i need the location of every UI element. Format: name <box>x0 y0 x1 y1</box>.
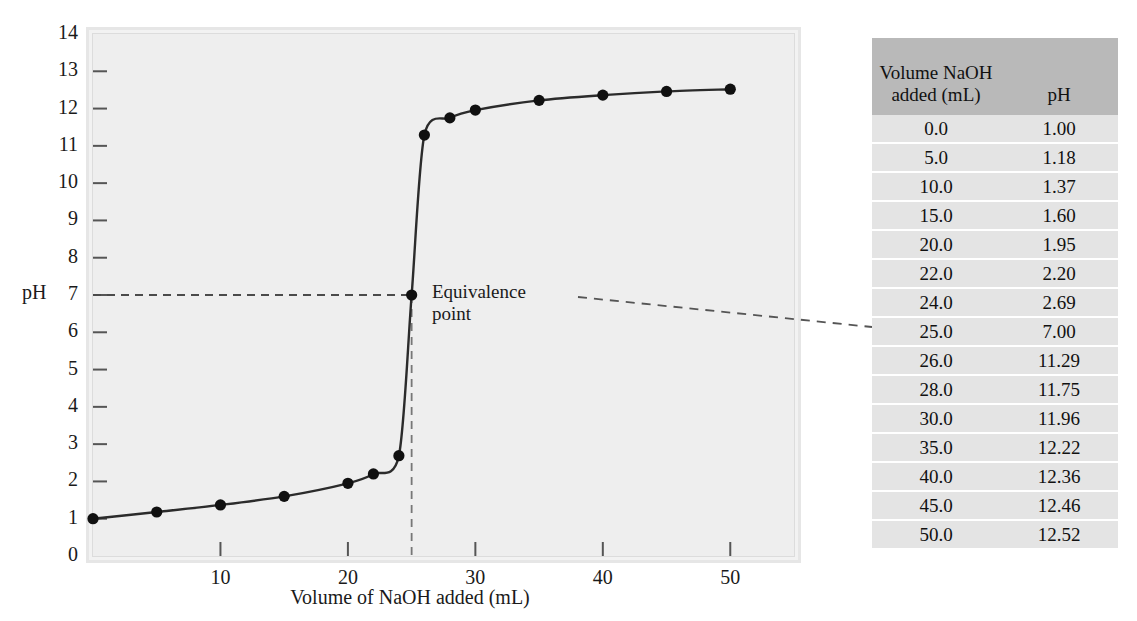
cell-volume: 5.0 <box>872 143 1000 172</box>
table-row: 25.07.00 <box>872 317 1118 346</box>
y-tick-label-3: 3 <box>44 431 78 454</box>
x-tick-label-40: 40 <box>583 566 623 589</box>
y-tick-label-9: 9 <box>44 207 78 230</box>
y-tick-label-14: 14 <box>44 21 78 44</box>
column-header-volume: Volume NaOH added (mL) <box>872 38 1000 115</box>
cell-volume: 45.0 <box>872 491 1000 520</box>
y-tick-label-7: 7 <box>44 282 78 305</box>
cell-ph: 7.00 <box>1000 317 1118 346</box>
y-tick-label-2: 2 <box>44 468 78 491</box>
cell-volume: 35.0 <box>872 433 1000 462</box>
x-tick-label-20: 20 <box>328 566 368 589</box>
cell-volume: 25.0 <box>872 317 1000 346</box>
cell-ph: 1.60 <box>1000 201 1118 230</box>
column-header-ph: pH <box>1000 38 1118 115</box>
table-row: 10.01.37 <box>872 172 1118 201</box>
y-tick-label-6: 6 <box>44 319 78 342</box>
y-tick-label-12: 12 <box>44 96 78 119</box>
y-axis-title: pH <box>22 281 46 304</box>
table-row: 26.011.29 <box>872 346 1118 375</box>
cell-volume: 22.0 <box>872 259 1000 288</box>
cell-ph: 2.69 <box>1000 288 1118 317</box>
cell-volume: 30.0 <box>872 404 1000 433</box>
table-body: 0.01.005.01.1810.01.3715.01.6020.01.9522… <box>872 115 1118 548</box>
y-tick-label-4: 4 <box>44 394 78 417</box>
table-row: 22.02.20 <box>872 259 1118 288</box>
table-row: 20.01.95 <box>872 230 1118 259</box>
x-tick-label-50: 50 <box>710 566 750 589</box>
cell-ph: 1.37 <box>1000 172 1118 201</box>
table-row: 50.012.52 <box>872 520 1118 548</box>
cell-ph: 12.46 <box>1000 491 1118 520</box>
titration-data-table: Volume NaOH added (mL) pH 0.01.005.01.18… <box>872 38 1118 548</box>
table-row: 40.012.36 <box>872 462 1118 491</box>
cell-volume: 26.0 <box>872 346 1000 375</box>
table-row: 35.012.22 <box>872 433 1118 462</box>
cell-ph: 2.20 <box>1000 259 1118 288</box>
table-row: 28.011.75 <box>872 375 1118 404</box>
y-tick-label-5: 5 <box>44 357 78 380</box>
cell-ph: 12.52 <box>1000 520 1118 548</box>
x-tick-label-10: 10 <box>200 566 240 589</box>
y-tick-label-1: 1 <box>44 506 78 529</box>
cell-volume: 15.0 <box>872 201 1000 230</box>
table-row: 30.011.96 <box>872 404 1118 433</box>
cell-ph: 12.36 <box>1000 462 1118 491</box>
titration-chart: pH Volume of NaOH added (mL) 01234567891… <box>0 0 810 621</box>
cell-ph: 12.22 <box>1000 433 1118 462</box>
x-tick-label-30: 30 <box>455 566 495 589</box>
table-row: 15.01.60 <box>872 201 1118 230</box>
table-row: 24.02.69 <box>872 288 1118 317</box>
cell-ph: 11.75 <box>1000 375 1118 404</box>
cell-volume: 28.0 <box>872 375 1000 404</box>
y-tick-label-11: 11 <box>44 133 78 156</box>
cell-volume: 0.0 <box>872 115 1000 143</box>
y-tick-label-8: 8 <box>44 245 78 268</box>
cell-ph: 1.00 <box>1000 115 1118 143</box>
y-tick-label-0: 0 <box>44 543 78 566</box>
cell-ph: 11.96 <box>1000 404 1118 433</box>
cell-volume: 10.0 <box>872 172 1000 201</box>
y-tick-label-10: 10 <box>44 170 78 193</box>
table-row: 45.012.46 <box>872 491 1118 520</box>
table-row: 5.01.18 <box>872 143 1118 172</box>
cell-ph: 1.18 <box>1000 143 1118 172</box>
titration-figure: pH Volume of NaOH added (mL) 01234567891… <box>0 0 1137 621</box>
y-tick-label-13: 13 <box>44 58 78 81</box>
x-axis-title: Volume of NaOH added (mL) <box>240 586 580 609</box>
table-row: 0.01.00 <box>872 115 1118 143</box>
cell-ph: 11.29 <box>1000 346 1118 375</box>
cell-volume: 24.0 <box>872 288 1000 317</box>
table-header-row: Volume NaOH added (mL) pH <box>872 38 1118 115</box>
equivalence-point-label: Equivalence point <box>432 281 526 325</box>
cell-volume: 20.0 <box>872 230 1000 259</box>
cell-volume: 50.0 <box>872 520 1000 548</box>
cell-volume: 40.0 <box>872 462 1000 491</box>
cell-ph: 1.95 <box>1000 230 1118 259</box>
